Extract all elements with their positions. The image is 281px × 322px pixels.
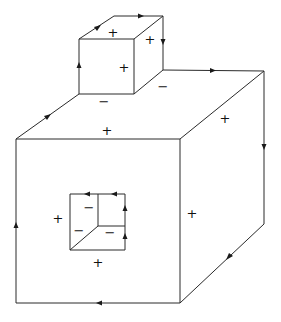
cube-orientation-diagram: + + + − − + + + + + − − − [0,0,281,322]
arrow-down-icon [161,39,166,45]
small-cube [77,14,166,95]
arrow-right-icon [138,14,144,19]
large-cube [14,68,267,306]
sign-big-front-left: + [53,211,64,226]
sign-big-top: + [102,123,113,138]
sign-hole-top: − [84,200,95,215]
sign-small-right: + [145,32,156,47]
sign-hole-left: − [74,223,85,238]
arrow-right-icon [210,68,216,73]
inner-cavity [70,192,128,251]
arrow-left-icon [84,192,90,197]
sign-small-base-right: − [158,79,169,94]
arrow-down-icon [262,144,267,150]
sign-hole-right: − [105,225,116,240]
sign-small-top: + [108,25,119,40]
arrow-up-icon [77,62,82,68]
arrow-up-icon [14,222,19,228]
sign-small-front: + [119,60,130,75]
cavity-inner-edges [98,194,125,226]
arrow-up-right-icon [44,114,51,120]
sign-big-right-top: + [220,111,231,126]
large-cube-top-right-edge [180,71,264,139]
arrow-left-icon [96,301,102,306]
arrow-up-icon [123,205,128,211]
arrow-left-icon [111,192,117,197]
sign-big-front-bottom: + [93,255,104,270]
arrow-up-icon [123,233,128,239]
sign-big-right: + [187,206,198,221]
arrow-up-right-icon [94,25,101,31]
large-cube-right-edge [180,71,264,303]
sign-small-base-front: − [99,94,110,109]
